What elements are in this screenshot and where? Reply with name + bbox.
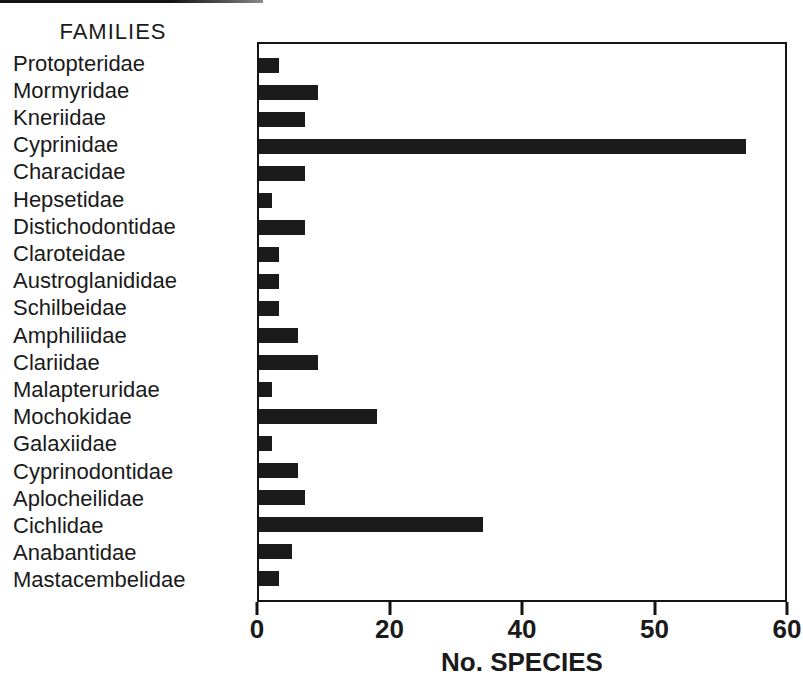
category-label-clariidae: Clariidae [13, 349, 251, 376]
bars-container [259, 44, 785, 600]
x-tick-label-20: 20 [375, 616, 404, 642]
category-label-cichlidae: Cichlidae [13, 512, 251, 539]
bar-row [259, 79, 785, 106]
category-label-distichodontidae: Distichodontidae [13, 213, 251, 240]
top-edge-rule [0, 0, 263, 3]
category-label-mormyridae: Mormyridae [13, 77, 251, 104]
x-tick-label-40: 40 [508, 616, 537, 642]
x-axis-label: No. SPECIES [257, 649, 787, 675]
category-label-schilbeidae: Schilbeidae [13, 295, 251, 322]
bar-row [259, 268, 785, 295]
bar-austroglanididae [259, 274, 279, 289]
bar-malapteruridae [259, 382, 272, 397]
category-label-claroteidae: Claroteidae [13, 240, 251, 267]
bar-row [259, 538, 785, 565]
category-label-amphiliidae: Amphiliidae [13, 322, 251, 349]
bar-row [259, 403, 785, 430]
families-heading: FAMILIES [13, 19, 213, 45]
x-tick-label-50: 50 [640, 616, 669, 642]
bar-galaxiidae [259, 436, 272, 451]
bar-hepsetidae [259, 193, 272, 208]
bar-row [259, 349, 785, 376]
bar-mormyridae [259, 85, 318, 100]
category-label-column: ProtopteridaeMormyridaeKneriidaeCyprinid… [13, 50, 251, 594]
category-label-kneriidae: Kneriidae [13, 104, 251, 131]
bar-anabantidae [259, 544, 292, 559]
category-label-aplocheilidae: Aplocheilidae [13, 485, 251, 512]
bar-row [259, 295, 785, 322]
x-tick-label-0: 0 [250, 616, 264, 642]
bar-mochokidae [259, 409, 377, 424]
x-tick-label-60: 60 [773, 616, 802, 642]
category-label-characidae: Characidae [13, 159, 251, 186]
bar-row [259, 430, 785, 457]
bar-row [259, 187, 785, 214]
bar-amphiliidae [259, 328, 298, 343]
bar-characidae [259, 166, 305, 181]
category-label-malapteruridae: Malapteruridae [13, 376, 251, 403]
category-label-cyprinodontidae: Cyprinodontidae [13, 458, 251, 485]
category-label-galaxiidae: Galaxiidae [13, 431, 251, 458]
bar-row [259, 52, 785, 79]
bar-mastacembelidae [259, 571, 279, 586]
bar-cyprinidae [259, 139, 746, 154]
bar-row [259, 484, 785, 511]
category-label-anabantidae: Anabantidae [13, 540, 251, 567]
category-label-austroglanididae: Austroglanididae [13, 268, 251, 295]
category-label-protopteridae: Protopteridae [13, 50, 251, 77]
bar-row [259, 214, 785, 241]
bar-aplocheilidae [259, 490, 305, 505]
bar-row [259, 457, 785, 484]
bar-row [259, 511, 785, 538]
bar-row [259, 322, 785, 349]
bar-chart-figure: FAMILIES ProtopteridaeMormyridaeKneriida… [0, 0, 803, 684]
bar-kneriidae [259, 112, 305, 127]
category-label-cyprinidae: Cyprinidae [13, 132, 251, 159]
bar-schilbeidae [259, 301, 279, 316]
bar-claroteidae [259, 247, 279, 262]
bar-row [259, 241, 785, 268]
bar-row [259, 133, 785, 160]
bar-distichodontidae [259, 220, 305, 235]
category-label-hepsetidae: Hepsetidae [13, 186, 251, 213]
category-label-mastacembelidae: Mastacembelidae [13, 567, 251, 594]
bar-row [259, 376, 785, 403]
bar-cichlidae [259, 517, 483, 532]
bar-row [259, 106, 785, 133]
bar-cyprinodontidae [259, 463, 298, 478]
bar-protopteridae [259, 58, 279, 73]
plot-area [257, 42, 787, 602]
bar-clariidae [259, 355, 318, 370]
category-label-mochokidae: Mochokidae [13, 404, 251, 431]
bar-row [259, 160, 785, 187]
bar-row [259, 565, 785, 592]
